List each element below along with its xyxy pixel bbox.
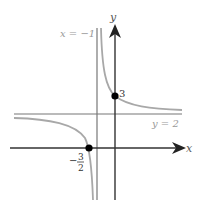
x-intercept-point <box>85 144 92 151</box>
x-intercept-numerator: 3 <box>78 152 84 162</box>
vertical-asymptote-label: x = −1 <box>60 28 95 39</box>
horizontal-asymptote-label: y = 2 <box>151 118 179 129</box>
y-intercept-point <box>111 92 118 99</box>
x-intercept-denominator: 2 <box>78 163 84 173</box>
x-intercept-sign: − <box>69 155 77 166</box>
x-axis-label: x <box>186 142 193 155</box>
graph: y x x = −1 y = 2 3 − 3 2 <box>0 0 200 208</box>
y-intercept-label: 3 <box>119 88 125 99</box>
y-axis-label: y <box>109 11 117 24</box>
